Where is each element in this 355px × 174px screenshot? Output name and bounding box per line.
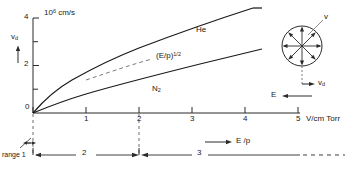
inset-vd-arrow-head [309,82,315,86]
inset-vd-label: vd [318,79,325,88]
x-axis-title: E /p [236,137,250,145]
ep-arrow-head [226,140,232,144]
curve-label-sqrt-ep: (E/p)1/2 [156,52,181,60]
curve-label-he: He [196,26,206,34]
x-tick-label-5: 5 [296,115,300,123]
x-tick-label-0: 0 [25,103,29,111]
y-axis-title-sub: d [15,35,18,41]
vd-axis-arrow-head [16,46,20,52]
y-axis-unit-mantissa: 10 [44,8,53,17]
y-tick-label-2: 2 [24,60,28,68]
range1-arrow-right [32,141,36,145]
figure-canvas [0,0,355,174]
range-2-label: 2 [82,149,86,157]
range2-arrow-right [132,153,139,157]
x-tick-label-1: 1 [84,115,88,123]
x-tick-label-3: 3 [190,115,194,123]
inset-vd-label-sub: d [322,81,325,87]
range-1-label: range 1 [2,151,26,158]
curve-n2 [33,49,262,113]
curve-label-n2: N2 [152,85,161,94]
curve-sqrt-ep [86,59,152,80]
range2-arrow-left [35,153,41,157]
curve-he [33,8,253,113]
x-tick-label-2: 2 [137,115,141,123]
y-axis-unit-rest: cm/s [56,8,75,17]
y-tick-label-4: 4 [24,13,28,21]
x-tick-label-4: 4 [243,115,247,123]
velocity-distribution-inset [282,20,323,98]
inset-v-label: v [324,13,328,21]
range-3-label: 3 [197,149,201,157]
curve-label-n2-sub: 2 [158,87,161,93]
drift-velocity-figure: 4 2 106 cm/s vd 0 1 2 3 4 5 V/cm Torr E … [0,0,355,174]
inset-e-arrow-head [282,94,288,98]
inset-e-label: E [271,91,276,99]
y-axis-title: vd [11,33,18,42]
y-axis-unit: 106 cm/s [44,9,75,17]
curve-label-sqrt-base: (E/p) [156,51,173,60]
curve-label-sqrt-exp: 1/2 [173,51,181,57]
x-axis-unit: V/cm Torr [306,115,340,123]
